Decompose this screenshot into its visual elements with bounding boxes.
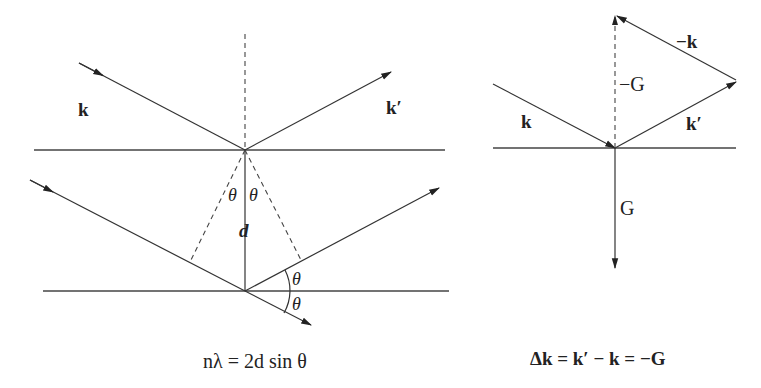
theta-label-upper: θ	[292, 269, 301, 289]
path-difference-right	[245, 150, 302, 262]
bragg-diagram: k k′ θ θ d θ θ nλ = 2d sin θ	[30, 34, 449, 372]
laue-equation: Δk = k′ − k = −G	[530, 348, 666, 369]
theta-label-right: θ	[249, 185, 258, 205]
spacing-label: d	[239, 220, 249, 241]
incident-extension	[245, 291, 311, 325]
scattered-ray-lower	[245, 188, 439, 291]
arrow-icon	[30, 180, 53, 192]
incident-vector	[493, 84, 615, 148]
neg-incident-label: −k	[676, 31, 698, 52]
laue-diagram: k k′ −k −G G Δk = k′ − k = −G	[493, 16, 736, 369]
path-difference-left	[190, 150, 245, 262]
diffraction-diagram: k k′ θ θ d θ θ nλ = 2d sin θ k k′ −k −G …	[0, 0, 761, 388]
arrow-icon	[79, 63, 103, 76]
scattered-label: k′	[386, 97, 402, 118]
scattered-ray-upper	[245, 72, 391, 150]
G-label: G	[620, 197, 634, 219]
theta-label-lower: θ	[292, 294, 301, 314]
incident-ray-upper	[79, 63, 245, 150]
neg-G-label: −G	[619, 73, 645, 95]
bragg-equation: nλ = 2d sin θ	[203, 350, 307, 372]
theta-label-left: θ	[228, 185, 237, 205]
incident-ray-lower	[30, 180, 245, 291]
scattered-label: k′	[686, 113, 702, 134]
incident-label: k	[78, 99, 89, 120]
incident-label: k	[521, 111, 532, 132]
